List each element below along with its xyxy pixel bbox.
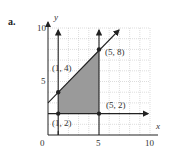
vertex-5-8 bbox=[97, 47, 101, 51]
y-axis-label: y bbox=[54, 12, 58, 22]
x-tick-10: 10 bbox=[145, 138, 154, 148]
vertex-label-5-2: (5, 2) bbox=[106, 100, 126, 110]
vertex-label-1-2: (1, 2) bbox=[52, 118, 72, 128]
x-axis-label: x bbox=[156, 121, 160, 131]
vertex-1-2 bbox=[56, 111, 60, 115]
vertex-label-1-4: (1, 4) bbox=[52, 63, 72, 73]
vertex-label-5-8: (5, 8) bbox=[105, 47, 125, 57]
vertex-1-4 bbox=[56, 90, 60, 94]
y-tick-10: 10 bbox=[37, 23, 46, 33]
x-tick-5: 5 bbox=[96, 138, 101, 148]
vertex-5-2 bbox=[97, 111, 101, 115]
y-tick-5: 5 bbox=[41, 76, 46, 86]
x-tick-0: 0 bbox=[40, 138, 45, 148]
chart-plot bbox=[0, 0, 169, 155]
